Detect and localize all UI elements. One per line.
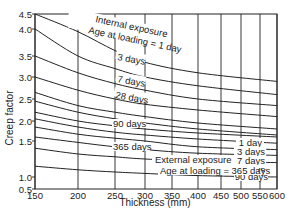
y-tick-label: 2.0 — [19, 116, 32, 127]
y-axis-label: Creep factor — [4, 90, 15, 146]
chart-svg: 1502002503003504004505005506000.51.01.52… — [0, 0, 295, 211]
x-tick-label: 400 — [190, 190, 206, 201]
x-axis-label: Thickness (mm) — [119, 197, 190, 208]
y-tick-label: 4.5 — [19, 9, 32, 20]
internal-90-days-label: 90 days — [113, 118, 147, 129]
external-age-label: Age at loading = 365 days — [160, 165, 270, 176]
y-tick-label: 1.0 — [19, 172, 32, 183]
internal-7-days-label: 7 days — [117, 73, 147, 89]
internal-inline-labels: 3 days 7 days 28 days 90 days 365 days — [112, 50, 152, 152]
y-tick-label: 2.5 — [19, 94, 32, 105]
x-tick-label: 450 — [213, 190, 229, 201]
x-tick-label: 550 — [252, 190, 268, 201]
creep-factor-chart: 1502002503003504004505005506000.51.01.52… — [0, 0, 295, 211]
x-tick-label: 500 — [233, 190, 249, 201]
internal-3-days-label: 3 days — [117, 51, 147, 67]
internal-28-days-label: 28 days — [115, 89, 150, 106]
x-tick-label: 200 — [70, 190, 86, 201]
y-tick-label: 3.5 — [19, 51, 32, 62]
y-tick-label: 4.0 — [19, 24, 32, 35]
external-exposure-label: External exposure — [155, 154, 232, 165]
y-tick-label: 0.5 — [19, 184, 32, 195]
y-tick-label: 1.5 — [19, 136, 32, 147]
x-tick-label: 600 — [269, 190, 285, 201]
internal-365-days-label: 365 days — [113, 141, 152, 152]
y-tick-label: 3.0 — [19, 72, 32, 83]
